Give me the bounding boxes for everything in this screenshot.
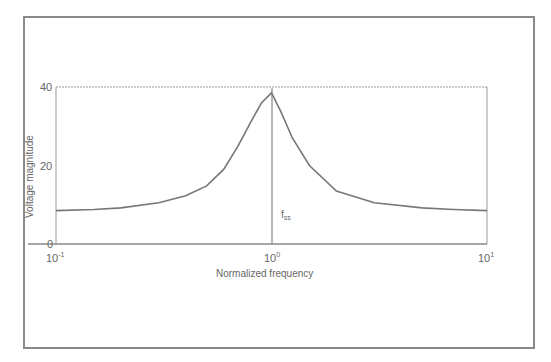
chart-canvas: 40 20 0 10-1 100 101 Normalized frequenc… (0, 0, 551, 362)
x-tick-10: 101 (478, 251, 494, 264)
y-axis-label: Voltage magnitude (24, 135, 35, 218)
y-tick-0: 0 (47, 238, 53, 250)
x-tick-1: 100 (264, 251, 280, 264)
x-axis-label: Normalized frequency (216, 268, 313, 279)
y-tick-20: 20 (40, 160, 52, 172)
y-tick-40: 40 (40, 81, 52, 93)
x-tick-0.1: 10-1 (46, 251, 65, 264)
fss-annotation: fss (281, 209, 291, 221)
